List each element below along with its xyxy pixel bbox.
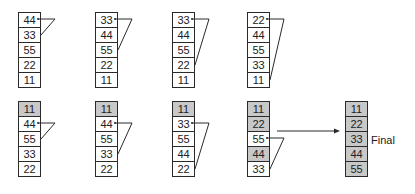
array-cell: 44 [18,12,41,28]
array-cell: 11 [247,101,270,117]
array-cell: 22 [95,161,118,177]
array-cell: 11 [345,101,368,117]
array-cell: 55 [345,161,368,177]
array-cell: 55 [172,42,195,58]
array-cell: 22 [95,57,118,73]
array-cell: 22 [172,161,195,177]
array-cell: 33 [18,27,41,43]
array-pass-5: 1144553322 [18,101,41,177]
array-cell: 11 [95,72,118,88]
array-cell: 33 [18,146,41,162]
array-cell: 44 [95,27,118,43]
array-cell: 33 [345,131,368,147]
array-cell: 44 [247,146,270,162]
array-cell: 33 [95,12,118,28]
array-cell: 44 [247,27,270,43]
array-cell: 44 [95,116,118,132]
array-cell: 55 [18,131,41,147]
array-cell: 44 [345,146,368,162]
array-cell: 33 [172,116,195,132]
array-cell: 22 [247,12,270,28]
array-cell: 44 [172,146,195,162]
array-cell: 44 [18,116,41,132]
array-pass-4: 2244553311 [247,12,270,88]
array-cell: 44 [172,27,195,43]
array-cell: 55 [172,131,195,147]
array-cell: 11 [247,72,270,88]
array-cell: 11 [95,101,118,117]
array-pass-6: 1144553322 [95,101,118,177]
array-cell: 11 [172,101,195,117]
array-pass-7: 1133554422 [172,101,195,177]
array-cell: 22 [345,116,368,132]
array-cell: 11 [18,72,41,88]
array-pass-1: 4433552211 [18,12,41,88]
array-cell: 55 [95,42,118,58]
array-cell: 22 [18,161,41,177]
array-cell: 55 [247,131,270,147]
array-cell: 11 [18,101,41,117]
array-cell: 55 [18,42,41,58]
array-cell: 33 [247,57,270,73]
array-pass-8: 1122554433 [247,101,270,177]
array-pass-3: 3344552211 [172,12,195,88]
array-cell: 55 [95,131,118,147]
array-cell: 22 [247,116,270,132]
arrow-head-icon [334,129,340,134]
array-cell: 22 [172,57,195,73]
array-cell: 33 [172,12,195,28]
array-cell: 33 [95,146,118,162]
array-cell: 22 [18,57,41,73]
array-cell: 55 [247,42,270,58]
final-array: 1122334455 [345,101,368,177]
final-label: Final [371,134,395,146]
array-cell: 11 [172,72,195,88]
array-cell: 33 [247,161,270,177]
array-pass-2: 3344552211 [95,12,118,88]
